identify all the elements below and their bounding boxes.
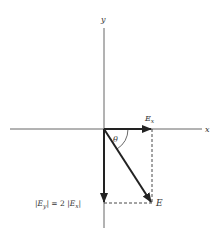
vector-diagram: y x θ Ex E |Ey| = 2 |Ex|: [0, 0, 222, 235]
e-label: E: [155, 198, 163, 208]
ex-label: Ex: [144, 114, 155, 124]
y-axis-label: y: [100, 15, 106, 24]
theta-arc: [117, 129, 128, 149]
x-axis-label: x: [205, 125, 210, 134]
ex-label-subscript: x: [151, 117, 155, 124]
relation-equals: = 2: [49, 199, 67, 208]
relation-rhs-close: |: [79, 199, 82, 208]
vector-e: [104, 129, 151, 202]
relation-label: |Ey| = 2 |Ex|: [35, 199, 81, 210]
